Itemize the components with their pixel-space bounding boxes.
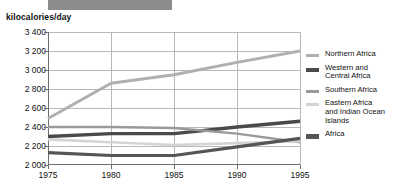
legend-item[interactable]: Africa <box>306 130 402 139</box>
legend-item[interactable]: Northern Africa <box>306 50 402 59</box>
y-axis-tick-label: 3 200 <box>25 46 46 56</box>
chart-legend: Northern AfricaWestern andCentral Africa… <box>306 50 402 144</box>
y-axis-tick-label: 2 400 <box>25 122 46 132</box>
legend-label: Africa <box>325 130 344 139</box>
x-axis-tick-label: 1995 <box>291 170 310 180</box>
x-axis-tick-label: 1990 <box>228 170 247 180</box>
legend-swatch <box>306 90 319 93</box>
series-lines <box>48 32 300 165</box>
chart-page: kilocalories/day 2 0002 2002 4002 6002 8… <box>0 0 402 192</box>
title-bar <box>48 0 172 10</box>
plot-area <box>48 32 300 165</box>
legend-swatch <box>306 134 319 139</box>
legend-swatch <box>306 103 319 106</box>
y-axis-tick-label: 2 000 <box>25 160 46 170</box>
x-axis-tick <box>174 165 175 169</box>
y-axis-tick-label: 3 000 <box>25 65 46 75</box>
legend-swatch <box>306 68 319 72</box>
legend-item[interactable]: Eastern Africaand Indian OceanIslands <box>306 99 402 125</box>
x-axis-tick-label: 1985 <box>165 170 184 180</box>
x-axis-tick-label: 1975 <box>39 170 58 180</box>
series-line <box>48 51 300 118</box>
y-axis-tick-label: 2 200 <box>25 141 46 151</box>
axis-unit-label: kilocalories/day <box>6 12 71 22</box>
x-axis-tick <box>300 165 301 169</box>
y-axis-tick-label: 2 600 <box>25 103 46 113</box>
legend-label: Eastern Africaand Indian OceanIslands <box>325 99 385 125</box>
y-axis-tick-label: 2 800 <box>25 84 46 94</box>
legend-label: Southern Africa <box>325 86 377 95</box>
x-axis-tick <box>48 165 49 169</box>
legend-label: Northern Africa <box>325 50 376 59</box>
legend-label: Western andCentral Africa <box>325 64 371 81</box>
legend-swatch <box>306 54 319 57</box>
legend-item[interactable]: Western andCentral Africa <box>306 64 402 81</box>
y-axis-tick-label: 3 400 <box>25 27 46 37</box>
x-axis-tick-label: 1980 <box>102 170 121 180</box>
legend-item[interactable]: Southern Africa <box>306 86 402 95</box>
x-axis-tick <box>111 165 112 169</box>
x-axis-tick <box>237 165 238 169</box>
